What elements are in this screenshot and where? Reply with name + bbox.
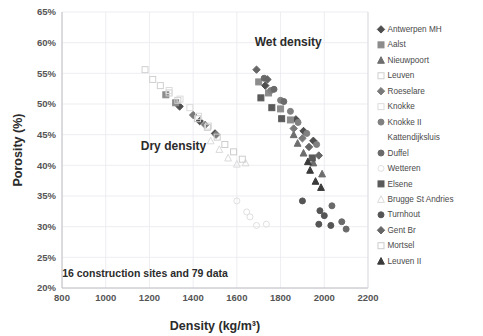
data-point-circle (287, 108, 293, 114)
data-point-circle (304, 130, 310, 136)
legend-item-label: Knokke (388, 102, 416, 111)
data-point-diamond (290, 125, 297, 132)
data-point-square (378, 42, 384, 48)
chart-caption: 16 construction sites and 79 data (62, 267, 228, 279)
x-tick-label: 2200 (357, 292, 378, 303)
x-tick-label: 2000 (314, 292, 335, 303)
x-tick-label: 1000 (95, 292, 116, 303)
data-point-circle (321, 213, 327, 219)
legend-item[interactable]: Duffel (378, 149, 409, 158)
data-point-diamond (377, 26, 384, 33)
y-tick-label: 25% (37, 252, 57, 263)
y-tick-label: 55% (37, 68, 57, 79)
data-point-circle (378, 119, 384, 125)
data-point-triangle (318, 184, 325, 191)
legend-item[interactable]: Elsene (378, 180, 413, 189)
legend-item-label: Leuven (388, 71, 415, 80)
data-point-circle (247, 214, 253, 220)
data-point-diamond (315, 152, 322, 159)
y-tick-label: 40% (37, 160, 57, 171)
data-point-circle (378, 212, 384, 218)
data-point-circle (316, 221, 322, 227)
data-point-circle (328, 222, 334, 228)
x-tick-label: 800 (54, 292, 70, 303)
legend-item-label: Nieuwpoort (388, 56, 430, 65)
data-point-square (222, 141, 228, 147)
data-point-square (378, 181, 384, 187)
series-leuven (142, 67, 181, 104)
legend-item-label: Elsene (388, 180, 413, 189)
data-point-square (157, 83, 163, 89)
data-point-square (142, 67, 148, 73)
legend-item[interactable]: Mortsel (378, 241, 415, 250)
data-point-triangle (312, 178, 319, 185)
legend-item[interactable]: Turnhout (378, 210, 421, 219)
data-point-square (279, 116, 285, 122)
x-tick-label: 1800 (270, 292, 291, 303)
y-tick-label: 50% (37, 98, 57, 109)
data-point-square (309, 155, 315, 161)
legend-item[interactable]: Antwerpen MH (377, 25, 441, 34)
scatter-chart: 20%25%30%35%40%45%50%55%60%65%8001000120… (0, 0, 483, 336)
legend-item-label: Wetteren (388, 164, 422, 173)
y-tick-label: 60% (37, 37, 57, 48)
data-point-square (258, 95, 264, 101)
data-point-triangle (300, 149, 307, 156)
data-point-triangle (378, 57, 385, 64)
data-point-circle (314, 141, 320, 147)
x-tick-label: 1200 (139, 292, 160, 303)
data-point-square (378, 73, 384, 79)
data-point-circle (343, 226, 349, 232)
data-point-square (269, 105, 275, 111)
legend-item-label: Knokke II (388, 118, 422, 127)
data-point-circle (339, 219, 345, 225)
legend-item-label: Aalst (388, 40, 407, 49)
legend-item[interactable]: Leuven (378, 71, 415, 80)
legend-item[interactable]: Gent Br (377, 226, 416, 235)
data-point-square (150, 76, 156, 82)
series-roeselare (189, 111, 306, 142)
plot-annotation: Wet density (255, 35, 322, 49)
legend-item-label: Mortsel (388, 241, 415, 250)
legend-item-label: Leuven II (388, 257, 422, 266)
data-point-triangle (378, 196, 385, 203)
data-point-square (378, 104, 384, 110)
series-aalst (163, 79, 294, 123)
legend-item[interactable]: Aalst (378, 40, 406, 49)
legend-item[interactable]: Leuven II (378, 257, 422, 266)
data-point-circle (299, 198, 305, 204)
plot-annotation: Dry density (141, 139, 207, 153)
legend-item[interactable]: Knokke (378, 102, 415, 111)
y-tick-label: 45% (37, 129, 57, 140)
legend-item[interactable]: Wetteren (378, 164, 421, 173)
x-tick-label: 1400 (183, 292, 204, 303)
legend-item-label: Gent Br (388, 226, 416, 235)
y-tick-label: 35% (37, 190, 57, 201)
data-point-square (231, 149, 237, 155)
data-point-circle (271, 86, 277, 92)
data-point-triangle (207, 137, 214, 144)
data-point-circle (329, 203, 335, 209)
data-point-triangle (307, 167, 314, 174)
legend-item-label: Kattendijksluis (388, 133, 440, 142)
data-point-circle (254, 222, 260, 228)
y-tick-label: 65% (37, 6, 57, 17)
legend-item[interactable]: Brugge St Andries (378, 195, 454, 204)
data-point-circle (378, 150, 384, 156)
data-point-triangle (225, 154, 232, 161)
legend-item[interactable]: Knokke II (378, 118, 422, 127)
legend-item-label: Roeselare (388, 87, 426, 96)
x-tick-label: 1600 (226, 292, 247, 303)
data-point-circle (378, 165, 384, 171)
data-point-triangle (294, 140, 301, 147)
data-point-square (278, 106, 284, 112)
legend-item-label: Turnhout (388, 210, 421, 219)
legend-item[interactable]: Nieuwpoort (378, 56, 430, 65)
legend-item[interactable]: Roeselare (377, 87, 425, 96)
data-point-square (173, 100, 179, 106)
data-point-square (287, 117, 293, 123)
data-point-square (187, 105, 193, 111)
series-wetteren (234, 198, 270, 229)
legend-item[interactable]: Kattendijksluis (388, 133, 440, 142)
data-point-diamond (377, 88, 384, 95)
